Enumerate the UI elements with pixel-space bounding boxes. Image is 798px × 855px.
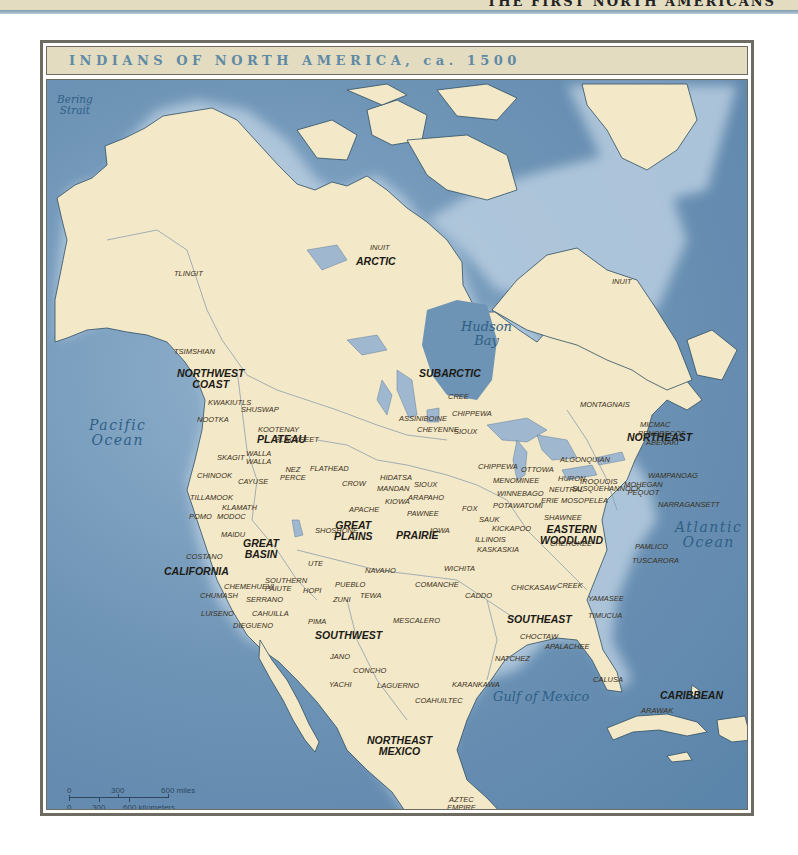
- people-label: APALACHEE: [545, 643, 589, 651]
- people-label: ERIE: [541, 497, 559, 505]
- people-label: UTE: [308, 560, 323, 568]
- north-america-map: BeringStrait HudsonBay PacificOcean Atla…: [46, 79, 748, 810]
- scale-km-600: 600 kilometers: [123, 803, 175, 810]
- people-label: SIOUX: [414, 481, 437, 489]
- region-subarctic: SUBARCTIC: [419, 368, 481, 379]
- region-caribbean: CARIBBEAN: [660, 690, 723, 701]
- region-northwest-coast: NORTHWESTCOAST: [177, 368, 244, 390]
- people-label: CREEK: [557, 582, 583, 590]
- people-label: ASSINIBOINE: [399, 415, 447, 423]
- water-label-bering-strait: BeringStrait: [57, 94, 93, 116]
- people-label: POMO: [189, 513, 212, 521]
- map-frame: INDIANS OF NORTH AMERICA, ca. 1500: [40, 40, 754, 816]
- people-label: MESCALERO: [393, 617, 440, 625]
- running-head-bar: THE FIRST NORTH AMERICANS: [0, 0, 798, 10]
- people-label: ARAWAK: [641, 707, 673, 715]
- people-label: CHICKASAW: [511, 584, 556, 592]
- people-label: PENOBSCOT: [638, 430, 685, 438]
- people-label: TSIMSHIAN: [174, 348, 215, 356]
- map-title: INDIANS OF NORTH AMERICA, ca. 1500: [69, 53, 521, 68]
- people-label: SIOUX: [454, 428, 477, 436]
- people-label: MONTAGNAIS: [580, 401, 630, 409]
- people-label: CAHUILLA: [252, 610, 289, 618]
- people-label: SAUK: [479, 516, 499, 524]
- people-label: ARAPAHO: [408, 494, 444, 502]
- people-label: JANO: [330, 653, 350, 661]
- people-label: COAHUILTEC: [415, 697, 463, 705]
- people-label: KLAMATH: [222, 504, 257, 512]
- people-label: PUEBLO: [335, 581, 365, 589]
- people-label: CHEYENNE: [417, 426, 459, 434]
- people-label: AZTECEMPIRE: [447, 796, 476, 810]
- people-label: CROW: [342, 480, 366, 488]
- people-label: WAMPANOAG: [648, 472, 698, 480]
- people-label: SHUSWAP: [241, 406, 279, 414]
- people-label: COSTANO: [186, 553, 223, 561]
- people-label: FLATHEAD: [310, 465, 349, 473]
- people-label: YACHI: [329, 681, 352, 689]
- people-label: NAVAHO: [365, 567, 396, 575]
- people-label: TILLAMOOK: [190, 494, 233, 502]
- people-label: NEZPERCE: [280, 466, 306, 483]
- water-label-atlantic-ocean: AtlanticOcean: [675, 520, 742, 549]
- people-label: CHINOOK: [197, 472, 232, 480]
- people-label: POTAWATOMI: [493, 502, 543, 510]
- people-label: PAWNEE: [407, 510, 439, 518]
- people-label: MOSOPELEA: [561, 497, 608, 505]
- landmass-shapes: [47, 80, 748, 810]
- people-label: HIDATSA: [380, 474, 412, 482]
- people-label: CONCHO: [353, 667, 386, 675]
- people-label: COMANCHE: [415, 581, 459, 589]
- people-label: BLACKFEET: [275, 436, 319, 444]
- people-label: WICHITA: [444, 565, 475, 573]
- people-label: CHIPPEWA: [452, 410, 492, 418]
- people-label: TLINGIT: [174, 270, 203, 278]
- region-great-basin: GREATBASIN: [243, 538, 279, 560]
- people-label: CALUSA: [593, 676, 623, 684]
- region-northeast-mexico: NORTHEASTMEXICO: [367, 735, 432, 757]
- header-rule: [0, 10, 798, 14]
- people-label: PAMLICO: [635, 543, 668, 551]
- people-label: ILLINOIS: [475, 536, 506, 544]
- people-label: CHUMASH: [200, 592, 238, 600]
- people-label: WALLAWALLA: [246, 450, 271, 467]
- region-arctic: ARCTIC: [356, 256, 396, 267]
- people-label: INUIT: [612, 278, 632, 286]
- people-label: ABENAKI: [646, 439, 679, 447]
- people-label: IOWA: [430, 527, 450, 535]
- scale-miles-0: 0: [67, 786, 71, 795]
- people-label: TUSCARORA: [632, 557, 679, 565]
- people-label: WINNEBAGO: [497, 490, 544, 498]
- scale-line: [69, 797, 169, 798]
- people-label: SKAGIT: [217, 454, 245, 462]
- people-label: CHEROKEE: [550, 540, 592, 548]
- people-label: SHOSHONE: [315, 527, 358, 535]
- people-label: KICKAPOO: [492, 525, 531, 533]
- people-label: KOOTENAY: [258, 426, 299, 434]
- scale-km-300: 300: [92, 803, 105, 810]
- people-label: MICMAC: [640, 421, 670, 429]
- scale-miles-600: 600 miles: [161, 786, 195, 795]
- people-label: HOPI: [303, 587, 321, 595]
- people-label: OTTOWA: [521, 466, 554, 474]
- people-label: SERRANO: [246, 596, 283, 604]
- people-label: KIOWA: [385, 498, 410, 506]
- people-label: MODOC: [217, 513, 246, 521]
- people-label: CAYUSE: [238, 478, 268, 486]
- people-label: DIEGUENO: [233, 622, 273, 630]
- people-label: PIMA: [308, 618, 326, 626]
- map-title-bar: INDIANS OF NORTH AMERICA, ca. 1500: [46, 46, 748, 75]
- people-label: CREE: [448, 393, 469, 401]
- people-label: MENOMINEE: [493, 477, 539, 485]
- running-head: THE FIRST NORTH AMERICANS: [487, 0, 776, 9]
- people-label: CHIPPEWA: [478, 463, 518, 471]
- people-label: KASKASKIA: [477, 546, 519, 554]
- people-label: SOUTHERNPAIUTE: [265, 577, 307, 594]
- people-label: MANDAN: [377, 485, 410, 493]
- people-label: YAMASEE: [588, 595, 624, 603]
- water-label-hudson-bay: HudsonBay: [461, 320, 512, 347]
- region-southeast: SOUTHEAST: [507, 614, 572, 625]
- people-label: FOX: [462, 505, 477, 513]
- people-label: LAGUERNO: [377, 682, 419, 690]
- people-label: APACHE: [349, 506, 379, 514]
